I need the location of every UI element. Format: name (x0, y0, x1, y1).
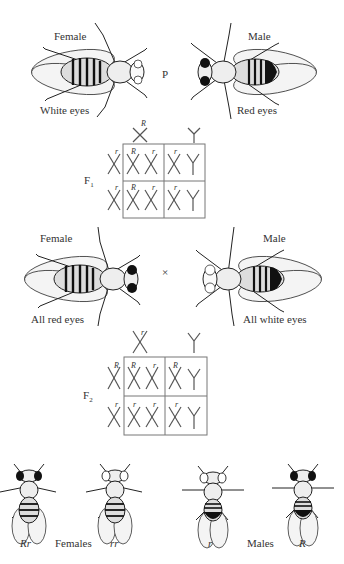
f2-cell-1-0: r r (128, 400, 158, 427)
f1-top-allele-0: R (140, 119, 146, 128)
f2-top-gamete-x: r (133, 328, 147, 353)
svg-text:R: R (172, 361, 178, 370)
f1-side-gamete-0: r (108, 147, 120, 174)
p-female-fly-image (25, 15, 155, 125)
svg-text:r: r (153, 361, 157, 370)
svg-text:r: r (115, 147, 119, 156)
genotype-label-r: r (208, 537, 212, 549)
f1-top-gamete-x: R (133, 119, 147, 142)
svg-text:r: r (115, 400, 119, 409)
f1-punnett-square: R r r R r r R r r (90, 110, 220, 220)
svg-text:r: r (133, 400, 137, 409)
f1-cell-1-0: R r (127, 183, 157, 210)
f2-cell-1-1: r (169, 400, 200, 429)
offspring-r-male-white-fly-image (182, 462, 244, 552)
f1-cell-1-1: r (168, 183, 199, 211)
p-male-fly-image (185, 15, 315, 125)
svg-text:R: R (113, 361, 119, 370)
svg-text:R: R (130, 361, 136, 370)
svg-text:R: R (130, 147, 136, 156)
svg-text:r: r (115, 183, 119, 192)
svg-text:r: r (153, 400, 157, 409)
f1-female-fly-image (18, 222, 148, 332)
f2-punnett-square: r R r R r R r r r (90, 323, 220, 438)
f2-top-gamete-y (188, 333, 200, 353)
svg-text:r: r (175, 400, 179, 409)
f2-cell-0-0: R r (128, 361, 158, 389)
f2-side-gamete-0: R (108, 361, 120, 389)
svg-text:r: r (174, 147, 178, 156)
f1-side-gamete-1: r (108, 183, 120, 210)
p-generation-label: P (162, 68, 168, 80)
f2-cell-0-1: R (169, 361, 200, 390)
genotype-label-Rr: Rr (20, 537, 31, 549)
males-label: Males (247, 537, 274, 549)
f1-cell-0-0: R r (127, 147, 157, 174)
genotype-label-R: R (299, 537, 306, 549)
svg-text:r: r (174, 183, 178, 192)
f1-male-fly-image (190, 222, 320, 332)
f2-side-gamete-1: r (108, 400, 120, 427)
svg-text:r: r (152, 147, 156, 156)
genotype-label-rr: rr (110, 537, 119, 549)
cross-symbol: × (162, 266, 168, 278)
svg-text:r: r (152, 183, 156, 192)
females-label: Females (55, 537, 92, 549)
f1-cell-0-1: r (168, 147, 199, 175)
svg-text:R: R (130, 183, 136, 192)
f1-top-gamete-y (188, 128, 200, 143)
